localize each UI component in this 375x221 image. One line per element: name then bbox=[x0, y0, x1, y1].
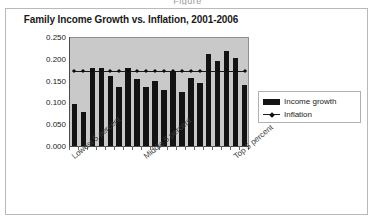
x-axis-tick bbox=[69, 146, 70, 150]
x-axis-tick bbox=[141, 146, 142, 150]
x-axis-tick bbox=[167, 146, 168, 150]
bar bbox=[143, 87, 149, 146]
chart-legend: Income growth Inflation bbox=[258, 91, 361, 123]
x-axis-tick bbox=[185, 146, 186, 150]
legend-label-inflation: Inflation bbox=[284, 110, 312, 119]
x-axis-tick bbox=[132, 146, 133, 150]
x-axis-tick bbox=[212, 146, 213, 150]
legend-item-inflation: Inflation bbox=[263, 108, 356, 121]
x-axis-category-labels: Lowest 5 percentMiddle 5 percentTop 5 pe… bbox=[6, 9, 369, 79]
y-axis-tick-label: 0.000 bbox=[26, 142, 66, 151]
bar bbox=[242, 85, 248, 146]
y-axis-tick-label: 0.050 bbox=[26, 120, 66, 129]
x-axis-tick bbox=[105, 146, 106, 150]
x-axis-tick bbox=[221, 146, 222, 150]
x-axis-tick bbox=[230, 146, 231, 150]
x-axis-tick bbox=[96, 146, 97, 150]
x-axis-tick bbox=[123, 146, 124, 150]
bar bbox=[188, 78, 194, 146]
x-axis-tick bbox=[194, 146, 195, 150]
bar bbox=[108, 76, 114, 146]
bar bbox=[72, 104, 78, 146]
legend-line-swatch-icon bbox=[263, 111, 280, 118]
legend-label-income-growth: Income growth bbox=[284, 97, 336, 106]
x-axis-tick bbox=[114, 146, 115, 150]
legend-item-income-growth: Income growth bbox=[263, 95, 356, 108]
chart-container: Family Income Growth vs. Inflation, 2001… bbox=[5, 8, 368, 215]
y-axis-tick-label: 0.100 bbox=[26, 98, 66, 107]
bar bbox=[197, 83, 203, 146]
x-axis-tick bbox=[176, 146, 177, 150]
x-axis-tick bbox=[203, 146, 204, 150]
figure-caption: Figure bbox=[0, 0, 375, 5]
legend-bar-swatch-icon bbox=[263, 99, 280, 105]
bar bbox=[125, 68, 131, 146]
bar bbox=[152, 81, 158, 146]
bar bbox=[134, 79, 140, 146]
